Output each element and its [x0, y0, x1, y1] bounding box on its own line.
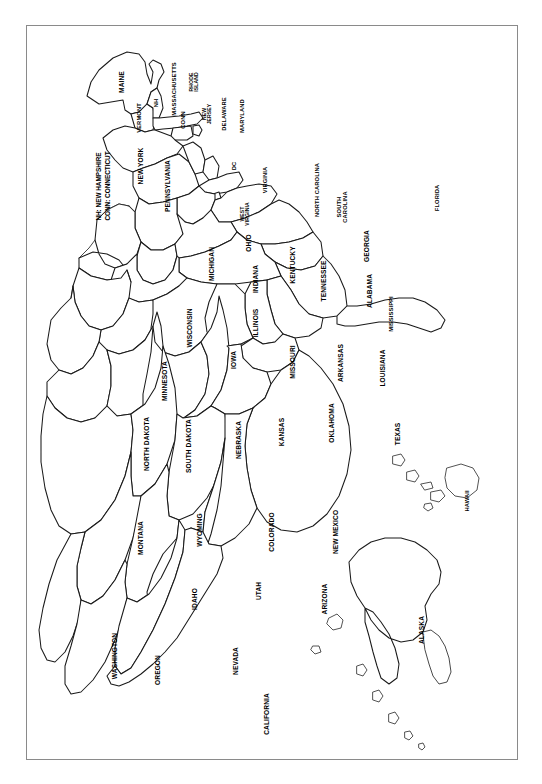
- hawaii-island-oahu: [407, 470, 419, 482]
- hawaii-island-molokai: [421, 482, 433, 490]
- hawaii-island-kauai: [393, 454, 405, 466]
- hawaii-island-maui: [431, 490, 445, 502]
- state-shape-florida[interactable]: [337, 298, 445, 332]
- state-shape-rhode-island[interactable]: [193, 125, 202, 136]
- page-canvas: MAINE VERMONT NH MASSACHUSETTS RHODE ISL…: [0, 0, 542, 784]
- alaska-panhandle-coast: [423, 630, 451, 684]
- alaska-aleutian-island-4: [405, 731, 413, 740]
- usa-states-map: [27, 26, 519, 761]
- alaska-island-small-west: [311, 646, 321, 654]
- hawaii-island-lanai: [424, 503, 433, 511]
- state-shape-alaska[interactable]: [349, 538, 441, 684]
- alaska-aleutian-island-2: [373, 690, 383, 702]
- state-shape-delaware[interactable]: [203, 156, 219, 180]
- alaska-aleutian-island-1: [357, 664, 367, 676]
- map-frame: MAINE VERMONT NH MASSACHUSETTS RHODE ISL…: [26, 25, 518, 760]
- alaska-aleutian-island-3: [389, 712, 399, 724]
- abbreviation-legend: NH: NEW HAMPSHIRE CONN: CONNECTICUT: [94, 151, 113, 220]
- alaska-aleutian-island-5: [419, 743, 425, 750]
- state-shape-connecticut[interactable]: [171, 126, 193, 140]
- hawaii-island-hawaii: [445, 464, 479, 498]
- alaska-island-kodiak: [327, 614, 343, 630]
